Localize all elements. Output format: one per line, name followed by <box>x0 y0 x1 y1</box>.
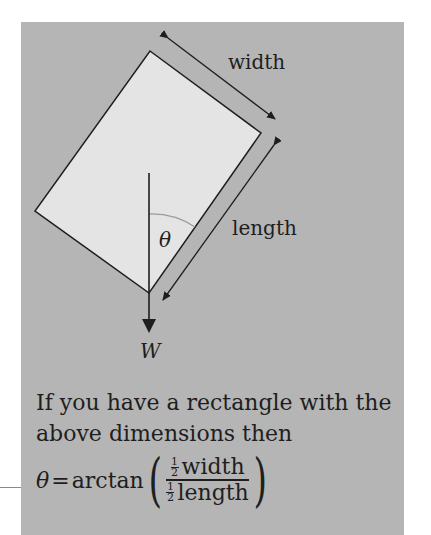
weight-label: W <box>140 341 161 361</box>
formula-function: arctan <box>72 468 144 493</box>
formula-equals: = <box>51 468 69 493</box>
caption-text: If you have a rectangle with the above d… <box>36 387 396 449</box>
theta-formula: θ = arctan ( 12 width 12 length ) <box>36 451 271 509</box>
theta-label: θ <box>159 230 171 250</box>
fraction: 12 width 12 length <box>166 455 248 505</box>
half-coefficient: 12 <box>171 457 179 478</box>
left-paren: ( <box>148 451 162 509</box>
length-label: length <box>232 218 297 238</box>
rectangle-shape <box>35 51 261 293</box>
formula-theta: θ <box>36 468 49 493</box>
half-coefficient: 12 <box>166 482 174 503</box>
right-paren: ) <box>253 451 267 509</box>
width-label: width <box>228 52 285 72</box>
fraction-numerator: 12 width <box>171 455 245 479</box>
fraction-denominator: 12 length <box>166 481 248 505</box>
